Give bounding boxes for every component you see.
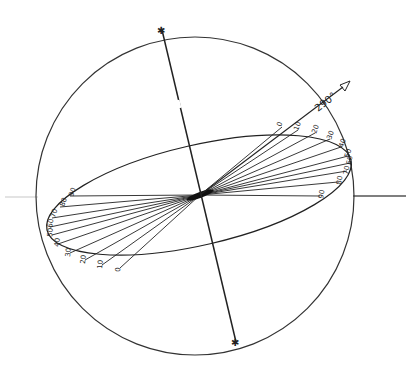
- svg-text:10: 10: [96, 260, 105, 270]
- svg-text:80: 80: [335, 175, 344, 185]
- svg-text:20: 20: [79, 255, 88, 265]
- svg-text:20: 20: [310, 124, 321, 135]
- svg-text:90: 90: [317, 189, 326, 199]
- svg-text:0: 0: [114, 267, 122, 272]
- svg-text:50: 50: [46, 228, 55, 238]
- axis-top-marker: ✱: [157, 25, 165, 36]
- svg-text:30: 30: [325, 130, 336, 141]
- svg-text:40: 40: [53, 238, 62, 248]
- right-labels: 0 10 20 30 40 50 60 70 80 90: [275, 121, 354, 200]
- svg-text:70: 70: [342, 165, 351, 175]
- sphere-diagram: ✱ ✱ 290° 0 10 20 30 40 50 60 70 80 90 90…: [0, 0, 419, 370]
- arrowhead-icon: [340, 81, 350, 91]
- svg-text:60: 60: [345, 155, 354, 165]
- svg-text:0: 0: [275, 121, 284, 128]
- svg-text:30: 30: [64, 248, 73, 258]
- axis-gap: [178, 100, 180, 108]
- axis-bottom-marker: ✱: [231, 337, 239, 348]
- svg-text:60: 60: [46, 218, 55, 228]
- svg-text:10: 10: [292, 121, 303, 132]
- left-labels: 90 80 70 60 50 40 30 20 10 0: [46, 187, 122, 273]
- rotation-axis: [162, 30, 236, 342]
